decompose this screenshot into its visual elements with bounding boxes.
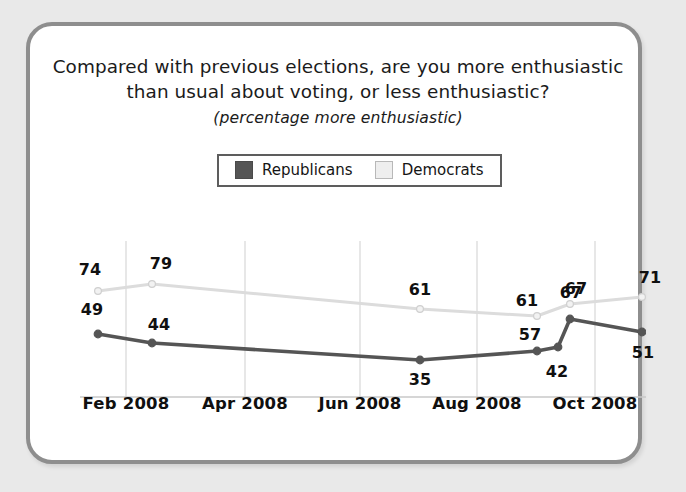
data-label-republicans-6: 51 [632, 343, 655, 362]
page-root: Compared with previous elections, are yo… [0, 0, 686, 492]
x-axis-tick-4: Oct 2008 [553, 394, 638, 413]
data-label-democrats-4: 67 [565, 279, 588, 298]
data-label-republicans-4: 42 [546, 362, 569, 381]
x-axis-tick-0: Feb 2008 [83, 394, 170, 413]
data-label-democrats-2: 61 [409, 280, 432, 299]
data-label-democrats-1: 79 [150, 254, 173, 273]
x-axis-tick-3: Aug 2008 [432, 394, 522, 413]
chart-x-axis: Feb 2008Apr 2008Jun 2008Aug 2008Oct 2008 [30, 394, 646, 424]
chart-card: Compared with previous elections, are yo… [26, 22, 642, 464]
data-label-democrats-5: 71 [639, 268, 662, 287]
data-label-republicans-2: 35 [409, 370, 432, 389]
data-label-democrats-3: 61 [516, 291, 539, 310]
data-label-republicans-1: 44 [148, 315, 171, 334]
data-label-republicans-0: 49 [81, 300, 104, 319]
data-label-democrats-0: 74 [79, 260, 102, 279]
x-axis-tick-2: Jun 2008 [319, 394, 402, 413]
x-axis-tick-1: Apr 2008 [202, 394, 288, 413]
data-label-republicans-3: 57 [519, 325, 542, 344]
